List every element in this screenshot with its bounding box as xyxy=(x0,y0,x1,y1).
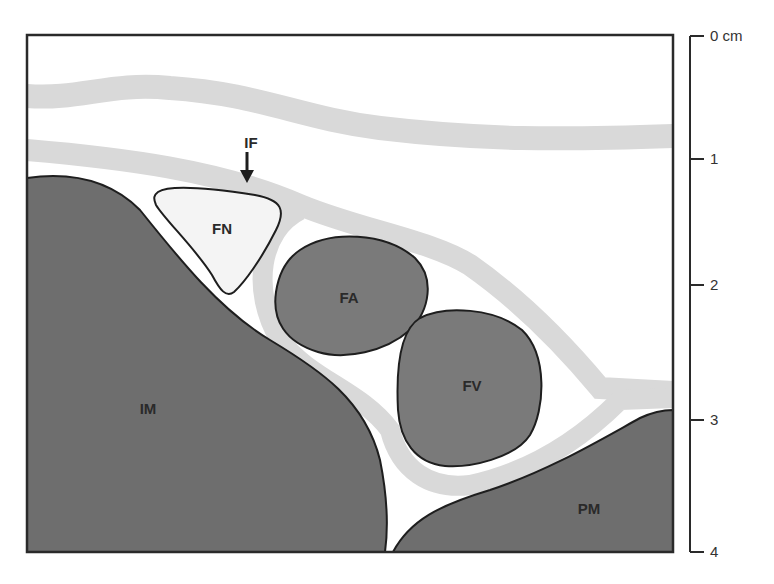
scale-tick-3: 3 xyxy=(710,411,718,428)
depth-scale: 0 cm 1 2 3 4 xyxy=(690,27,743,560)
label-if: IF xyxy=(244,134,257,151)
scale-tick-2: 2 xyxy=(710,276,718,293)
label-fn: FN xyxy=(212,220,232,237)
label-fa: FA xyxy=(339,289,358,306)
label-fv: FV xyxy=(462,377,481,394)
scale-tick-0: 0 cm xyxy=(710,27,743,44)
label-im: IM xyxy=(140,400,157,417)
scale-tick-4: 4 xyxy=(710,543,718,560)
scale-tick-1: 1 xyxy=(710,150,718,167)
ultrasound-anatomy-diagram: IF FN FA FV IM PM 0 cm 1 2 3 4 xyxy=(0,0,774,584)
label-pm: PM xyxy=(578,500,601,517)
